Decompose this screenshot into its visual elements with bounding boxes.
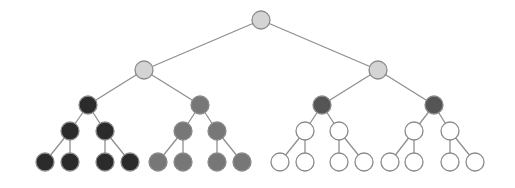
tree-node [355,153,373,171]
tree-node [296,153,314,171]
tree-node [233,153,251,171]
tree-node [466,153,484,171]
edges-layer [45,20,475,162]
tree-node [296,122,314,140]
tree-edge [144,20,261,70]
tree-node [381,153,399,171]
tree-node [252,11,270,29]
tree-node [135,61,153,79]
tree-node [330,153,348,171]
tree-node [96,153,114,171]
tree-node [174,122,192,140]
tree-node [208,153,226,171]
tree-node [149,153,167,171]
tree-node [79,96,97,114]
tree-node [405,122,423,140]
tree-node [330,122,348,140]
tree-edge [261,20,378,70]
nodes-layer [36,11,484,171]
tree-node [425,96,443,114]
tree-edge [144,70,200,105]
tree-node [191,96,209,114]
tree-node [208,122,226,140]
tree-edge [88,70,144,105]
tree-edge [378,70,434,105]
tree-node [174,153,192,171]
binary-tree-diagram [0,0,515,188]
tree-node [441,122,459,140]
tree-node [405,153,423,171]
tree-node [36,153,54,171]
tree-edge [322,70,378,105]
tree-node [61,153,79,171]
tree-node [369,61,387,79]
tree-node [313,96,331,114]
tree-node [441,153,459,171]
tree-canvas [0,0,515,188]
tree-node [96,122,114,140]
tree-node [61,122,79,140]
tree-node [271,153,289,171]
tree-node [121,153,139,171]
